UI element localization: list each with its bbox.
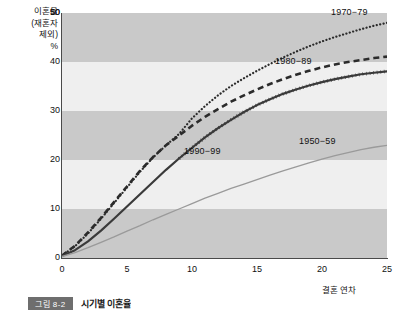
y-axis-line [61, 13, 62, 259]
y-tick-label: 10 [38, 203, 60, 213]
y-tick-label: 30 [38, 105, 60, 115]
series-label-1970-79: 1970−79 [331, 7, 368, 17]
x-axis-title: 결혼 연차 [322, 283, 356, 295]
series-label-1980-89: 1980−89 [275, 56, 312, 66]
plot-area [62, 13, 387, 258]
x-tick-label: 20 [307, 264, 337, 274]
series-line-1950-59 [62, 145, 387, 256]
figure-number-badge: 그림 8-2 [28, 297, 73, 310]
series-line-1990-99 [62, 71, 387, 256]
figure-caption: 그림 8-2 시기별 이혼율 [28, 297, 131, 310]
x-tick-label: 15 [242, 264, 272, 274]
figure-title: 시기별 이혼율 [81, 297, 132, 310]
y-axis-title-line-4: % [2, 41, 58, 53]
x-tick-label: 0 [47, 264, 77, 274]
series-label-1990-99: 1990−99 [184, 146, 221, 156]
y-tick-label: 0 [38, 252, 60, 262]
series-line-1980-89 [62, 57, 387, 256]
x-tick-label: 25 [372, 264, 399, 274]
y-tick-label: 40 [38, 56, 60, 66]
plot-svg [62, 13, 387, 258]
series-label-1950-59: 1950−59 [299, 136, 336, 146]
y-tick-label: 50 [38, 7, 60, 17]
x-axis-line [61, 258, 388, 259]
y-axis-title-line-2: (재혼자 [2, 18, 58, 30]
y-tick-label: 20 [38, 154, 60, 164]
x-tick-label: 10 [177, 264, 207, 274]
y-axis-title-line-3: 제외) [2, 29, 58, 41]
x-tick-label: 5 [112, 264, 142, 274]
